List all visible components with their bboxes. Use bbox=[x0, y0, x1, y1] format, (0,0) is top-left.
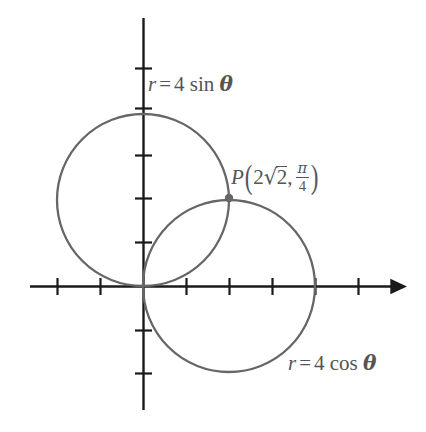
cos-label-equals: = bbox=[296, 351, 314, 375]
point-label-radius-coefficient: 2 bbox=[253, 167, 264, 188]
cos-label-function: cos bbox=[330, 351, 358, 375]
sin-label-variable: r bbox=[148, 72, 156, 96]
intersection-point-marker bbox=[225, 194, 233, 202]
point-label-open-paren: ( bbox=[245, 165, 253, 189]
sin-label-equals: = bbox=[156, 72, 174, 96]
point-label-angle-fraction: π 4 bbox=[296, 160, 310, 194]
cos-label-variable: r bbox=[288, 351, 296, 375]
angle-numerator: π bbox=[296, 160, 310, 177]
angle-denominator: 4 bbox=[297, 178, 308, 195]
point-label-radicand: 2 bbox=[276, 166, 288, 188]
intersection-point-label: P(2√2, π 4 ) bbox=[231, 160, 320, 194]
point-label-close-paren: ) bbox=[311, 165, 319, 189]
polar-graph-figure: r=4 sin θ r=4 cos θ P(2√2, π 4 ) bbox=[0, 0, 426, 432]
curve-label-sin: r=4 sin θ bbox=[148, 74, 233, 95]
point-label-radical: √2 bbox=[264, 166, 288, 188]
curve-label-cos: r=4 cos θ bbox=[288, 353, 376, 374]
sin-label-angle: θ bbox=[220, 72, 233, 96]
cos-label-coefficient: 4 bbox=[314, 351, 325, 375]
cos-label-angle: θ bbox=[363, 351, 376, 375]
sin-label-function: sin bbox=[190, 72, 215, 96]
sin-label-coefficient: 4 bbox=[174, 72, 185, 96]
point-label-comma: , bbox=[287, 167, 294, 188]
point-label-name: P bbox=[231, 167, 244, 188]
